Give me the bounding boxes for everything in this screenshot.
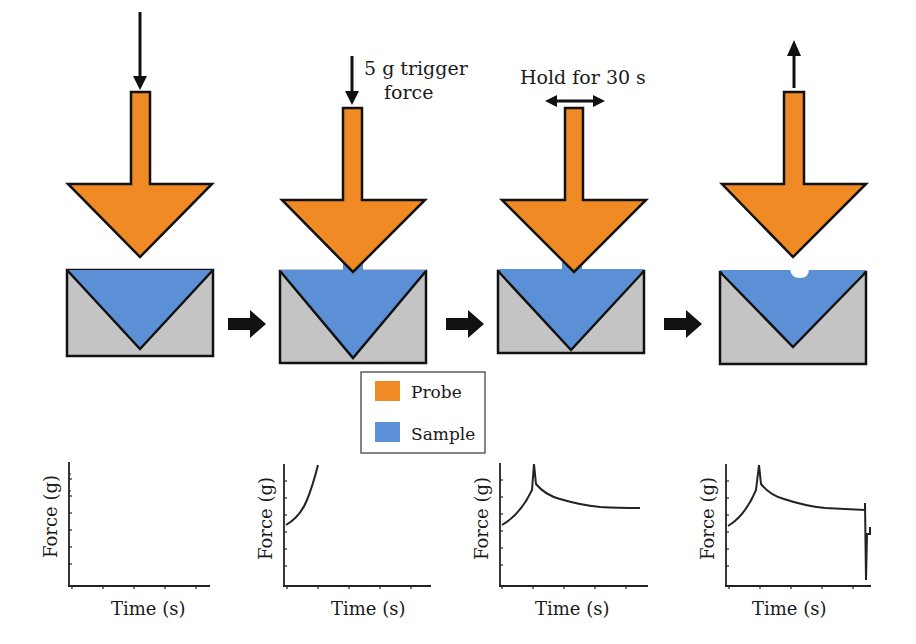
stage-1 (67, 12, 213, 356)
probe (68, 92, 212, 257)
x-axis-label: Time (s) (111, 598, 186, 619)
y-axis-label: Force (g) (471, 477, 492, 560)
y-axis-label: Force (g) (40, 475, 61, 558)
sample-container (67, 270, 213, 356)
y-axis-label: Force (g) (697, 477, 718, 560)
x-axis-label: Time (s) (535, 598, 610, 619)
up-arrow-icon (787, 40, 801, 88)
force-curve (728, 465, 870, 580)
legend-label-probe: Probe (411, 382, 462, 402)
probe (502, 108, 646, 272)
legend: Probe Sample (361, 372, 485, 453)
trigger-force-label-2: force (384, 81, 433, 103)
hold-label: Hold for 30 s (520, 66, 646, 88)
sample-container (498, 262, 644, 353)
force-curve (502, 464, 640, 525)
legend-swatch-sample (375, 422, 400, 442)
probe (722, 92, 866, 257)
x-axis-label: Time (s) (331, 598, 406, 619)
y-axis-label: Force (g) (255, 477, 276, 560)
down-arrow-icon (133, 12, 147, 90)
force-curve (286, 465, 318, 525)
sample-container (720, 269, 866, 364)
graph-1: Force (g) Time (s) (40, 462, 210, 619)
trigger-force-label: 5 g trigger (364, 57, 469, 79)
stage-3: Hold for 30 s (498, 66, 646, 353)
down-arrow-icon (345, 56, 359, 105)
legend-label-sample: Sample (411, 424, 475, 444)
texture-analysis-diagram: 5 g trigger force Hold for 30 s (0, 0, 916, 644)
graph-3: Force (g) Time (s) (471, 463, 648, 619)
x-axis-label: Time (s) (752, 598, 827, 619)
graph-2: Force (g) Time (s) (255, 464, 431, 619)
legend-swatch-probe (375, 381, 400, 401)
stage-4 (720, 40, 866, 364)
probe (282, 108, 425, 272)
right-arrow-icon (228, 310, 266, 338)
axes (68, 462, 210, 586)
stage-2: 5 g trigger force (280, 56, 469, 363)
right-arrow-icon (446, 310, 484, 338)
left-right-arrow-icon (545, 95, 605, 107)
right-arrow-icon (664, 310, 702, 338)
graph-4: Force (g) Time (s) (697, 464, 871, 619)
sample-container (280, 263, 426, 363)
